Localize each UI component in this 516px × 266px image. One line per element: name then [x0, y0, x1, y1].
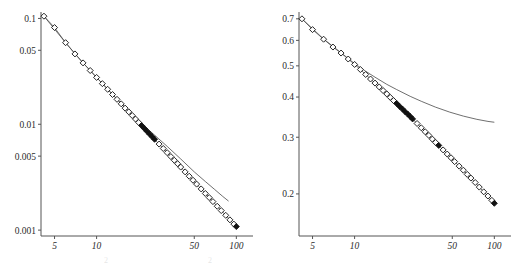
data-marker-group [299, 16, 497, 206]
y-tick-label: 0.005 [15, 152, 37, 162]
caption-fragment-a: 2 [104, 256, 108, 265]
y-tick-label: 0.001 [15, 226, 37, 236]
plot-area-left: 0.10.050.010.0050.00151050100 [0, 0, 258, 266]
y-tick-label: 0.1 [24, 14, 36, 24]
x-tick-label: 10 [92, 241, 102, 251]
y-tick-label: 0.5 [282, 61, 294, 71]
caption-fragment-b: 2 [208, 256, 212, 265]
plot-area-right: 0.70.60.50.40.30.251050100 [258, 0, 516, 266]
y-tick-label: 0.3 [282, 133, 294, 143]
chart-panel-left: 0.10.050.010.0050.00151050100 [0, 0, 258, 266]
y-tick-label: 0.2 [282, 189, 294, 199]
y-tick-label: 0.6 [282, 36, 294, 46]
y-tick-label: 0.05 [19, 46, 36, 56]
data-marker-group [41, 13, 239, 229]
theory-curve [44, 16, 229, 201]
x-tick-label: 50 [190, 241, 200, 251]
x-tick-label: 50 [448, 241, 458, 251]
y-tick-label: 0.01 [19, 120, 36, 130]
two-panel-figure: 0.10.050.010.0050.00151050100 0.70.60.50… [0, 0, 516, 266]
cropped-caption-artifact: 2 2 [0, 256, 516, 266]
x-tick-label: 100 [487, 241, 502, 251]
x-tick-label: 10 [350, 241, 360, 251]
x-tick-label: 100 [229, 241, 244, 251]
chart-panel-right: 0.70.60.50.40.30.251050100 [258, 0, 516, 266]
y-tick-label: 0.7 [282, 14, 294, 24]
x-tick-label: 5 [52, 241, 57, 251]
x-tick-label: 5 [310, 241, 315, 251]
y-tick-label: 0.4 [282, 92, 294, 102]
